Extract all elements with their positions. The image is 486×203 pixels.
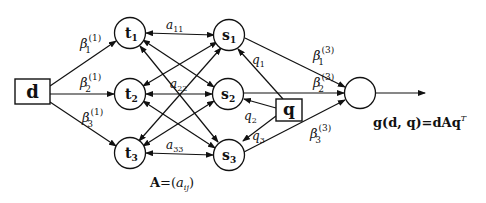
term-node-s1: s1 (214, 20, 245, 51)
term-node-t3: t3 (115, 138, 146, 169)
query-node-q: q (276, 99, 302, 121)
svg-text:a22: a22 (170, 77, 187, 93)
svg-text:β(1)3: β(1)3 (81, 107, 103, 129)
term-node-t2: t2 (115, 79, 146, 110)
a-labels: a11 a22 a33 (166, 18, 187, 154)
svg-text:a11: a11 (166, 18, 183, 34)
svg-text:β(3)3: β(3)3 (309, 123, 331, 145)
svg-text:d: d (26, 81, 39, 102)
svg-text:β(1)2: β(1)2 (79, 72, 101, 94)
term-node-s2: s2 (213, 79, 244, 110)
beta3-labels: β(3)1 β(3)2 β(3)3 (309, 45, 334, 145)
svg-text:β(3)2: β(3)2 (312, 72, 334, 94)
svg-text:q: q (283, 99, 295, 119)
matrix-caption: A=(aij) (149, 175, 194, 192)
term-node-t1: t1 (115, 18, 146, 49)
association-edges (139, 33, 221, 155)
input-node-d: d (15, 79, 50, 104)
output-formula: g(d, q)=dAqT (373, 114, 467, 130)
svg-text:β(1)1: β(1)1 (79, 33, 101, 55)
output-node (345, 78, 376, 109)
svg-text:q1: q1 (252, 53, 265, 69)
svg-text:q2: q2 (244, 109, 257, 125)
network-diagram: d q t1 t2 t3 s1 s2 s3 β(1)1 β(1)2 β(1)3 (0, 0, 486, 203)
term-node-s3: s3 (214, 140, 245, 171)
output-edges (243, 38, 425, 152)
svg-text:β(3)1: β(3)1 (312, 45, 334, 67)
svg-text:a33: a33 (166, 138, 183, 154)
beta1-labels: β(1)1 β(1)2 β(1)3 (79, 33, 103, 129)
q-labels: q1 q2 q3 (244, 53, 265, 145)
input-edges (50, 41, 116, 146)
svg-text:q3: q3 (252, 129, 265, 145)
